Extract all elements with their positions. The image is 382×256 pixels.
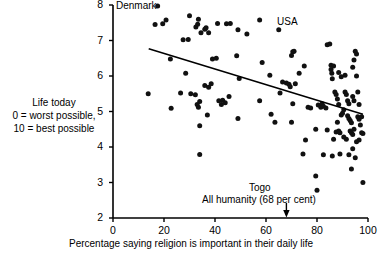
data-point xyxy=(160,21,165,26)
data-point xyxy=(198,30,203,35)
scatter-plot-figure: Life today 0 = worst possible, 10 = best… xyxy=(0,0,382,256)
data-point xyxy=(235,116,240,121)
all-humanity-arrow-marker xyxy=(283,203,289,218)
data-point xyxy=(351,127,356,132)
data-point xyxy=(323,105,328,110)
y-tick-label-5: 5 xyxy=(87,105,103,117)
y-tick-label-4: 4 xyxy=(87,140,103,152)
data-point xyxy=(272,120,277,125)
data-point xyxy=(193,92,198,97)
data-point xyxy=(350,94,355,99)
x-tick-label-60: 60 xyxy=(251,224,281,236)
data-point xyxy=(267,73,272,78)
data-point xyxy=(351,98,356,103)
data-point xyxy=(181,37,186,42)
data-point xyxy=(302,64,307,69)
data-point xyxy=(330,76,335,81)
annotation-usa: USA xyxy=(277,16,298,27)
data-point xyxy=(331,64,336,69)
data-point xyxy=(337,130,342,135)
data-point xyxy=(292,49,297,54)
data-point xyxy=(346,152,351,157)
data-point xyxy=(215,21,220,26)
data-point xyxy=(350,132,355,137)
data-point xyxy=(329,71,334,76)
data-point xyxy=(227,94,232,99)
annotation-togo: Togo xyxy=(249,182,271,193)
y-tick-label-2: 2 xyxy=(87,211,103,223)
data-point xyxy=(349,120,354,125)
data-point xyxy=(359,114,364,119)
data-point xyxy=(357,102,362,107)
data-point xyxy=(204,25,209,30)
data-point xyxy=(206,30,211,35)
data-point xyxy=(223,100,228,105)
data-point xyxy=(196,105,201,110)
data-point xyxy=(339,74,344,79)
data-point xyxy=(146,91,151,96)
data-point xyxy=(354,139,359,144)
data-point xyxy=(358,122,363,127)
data-point xyxy=(313,127,318,132)
y-tick-label-3: 3 xyxy=(87,176,103,188)
data-point xyxy=(300,152,305,157)
data-point xyxy=(293,81,298,86)
data-point xyxy=(331,137,336,142)
y-axis-title-line3: 10 = best possible xyxy=(14,123,95,134)
data-point xyxy=(276,27,281,32)
data-point xyxy=(234,53,239,58)
data-point xyxy=(153,22,158,27)
data-point xyxy=(197,123,202,128)
trend-line xyxy=(149,49,363,115)
data-point xyxy=(178,91,183,96)
data-point xyxy=(315,188,320,193)
y-axis-title-line1: Life today xyxy=(32,97,75,108)
data-point xyxy=(346,101,351,106)
arrow-head xyxy=(283,210,289,218)
data-point xyxy=(214,56,219,61)
data-point xyxy=(289,53,294,58)
data-point xyxy=(336,70,341,75)
data-point xyxy=(168,56,173,61)
data-point xyxy=(303,137,308,142)
x-tick-label-100: 100 xyxy=(353,224,382,236)
data-point xyxy=(244,32,249,37)
x-axis-title: Percentage saying religion is important … xyxy=(0,238,382,249)
data-point xyxy=(344,137,349,142)
data-point xyxy=(289,120,294,125)
annotation-all-humanity: All humanity (68 per cent) xyxy=(202,194,316,205)
data-point xyxy=(308,105,313,110)
data-point xyxy=(337,152,342,157)
data-point xyxy=(257,17,262,22)
data-point xyxy=(327,42,332,47)
data-point xyxy=(196,17,201,22)
data-point xyxy=(228,21,233,26)
data-point xyxy=(350,146,355,151)
data-points xyxy=(146,4,366,193)
y-tick-label-7: 7 xyxy=(87,34,103,46)
data-point xyxy=(188,91,193,96)
data-point xyxy=(164,17,169,22)
data-point xyxy=(313,174,318,179)
data-point xyxy=(354,51,359,56)
data-point xyxy=(354,74,359,79)
data-point xyxy=(349,167,354,172)
annotation-denmark: Denmark xyxy=(116,0,157,11)
data-point xyxy=(360,131,365,136)
data-point xyxy=(269,112,274,117)
data-point xyxy=(344,92,349,97)
data-point xyxy=(288,84,293,89)
data-point xyxy=(257,98,262,103)
data-point xyxy=(195,22,200,27)
x-tick-label-40: 40 xyxy=(200,224,230,236)
data-point xyxy=(197,99,202,104)
data-point xyxy=(353,155,358,160)
data-point xyxy=(183,71,188,76)
x-tick-label-80: 80 xyxy=(302,224,332,236)
x-tick-label-20: 20 xyxy=(149,224,179,236)
axes xyxy=(113,5,368,218)
data-point xyxy=(205,113,210,118)
data-point xyxy=(290,101,295,106)
y-tick-label-6: 6 xyxy=(87,69,103,81)
data-point xyxy=(297,71,302,76)
